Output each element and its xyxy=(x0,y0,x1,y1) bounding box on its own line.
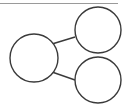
edge-root-to-child-bottom xyxy=(52,72,75,80)
edge-root-to-child-top xyxy=(52,37,75,44)
node-child-top xyxy=(75,7,121,53)
node-root xyxy=(10,34,58,82)
tree-diagram xyxy=(0,0,130,106)
node-child-bottom xyxy=(75,57,121,103)
nodes xyxy=(10,7,121,103)
